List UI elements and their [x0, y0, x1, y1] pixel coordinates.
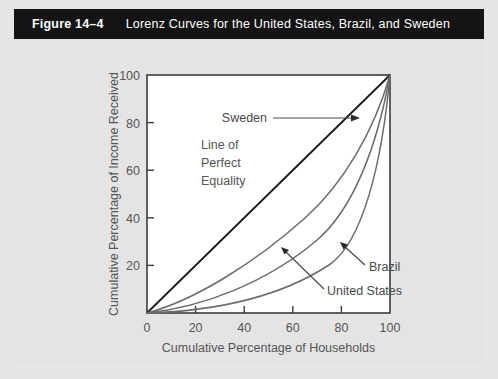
- lorenz-curve-chart: 100 80 60 40 20 0 20 40 60 80 100 Cumula…: [14, 39, 484, 364]
- x-tick-label-20: 20: [189, 321, 203, 335]
- y-tick-label-100: 100: [119, 69, 140, 83]
- figure-title-bar: Figure 14–4 Lorenz Curves for the United…: [14, 9, 484, 39]
- y-tick-label-60: 60: [126, 164, 140, 178]
- equality-label-line2: Perfect: [201, 156, 241, 170]
- brazil-label: Brazil: [369, 260, 400, 274]
- y-tick-label-20: 20: [126, 259, 140, 273]
- figure-body: 100 80 60 40 20 0 20 40 60 80 100 Cumula…: [14, 39, 484, 364]
- x-axis-title: Cumulative Percentage of Households: [162, 341, 375, 355]
- sweden-label: Sweden: [222, 111, 267, 125]
- x-tick-label-100: 100: [380, 321, 401, 335]
- x-tick-label-60: 60: [286, 321, 300, 335]
- figure-title: Lorenz Curves for the United States, Bra…: [126, 17, 450, 31]
- y-tick-label-40: 40: [126, 212, 140, 226]
- x-tick-label-0: 0: [144, 321, 151, 335]
- equality-label-line3: Equality: [201, 174, 246, 188]
- x-tick-label-80: 80: [334, 321, 348, 335]
- y-axis-title: Cumulative Percentage of Income Received: [107, 72, 121, 316]
- x-tick-label-40: 40: [237, 321, 251, 335]
- equality-label-line1: Line of: [201, 138, 239, 152]
- united-states-label: United States: [327, 284, 402, 298]
- figure-container: Figure 14–4 Lorenz Curves for the United…: [0, 0, 498, 379]
- y-tick-label-80: 80: [126, 117, 140, 131]
- figure-number: Figure 14–4: [32, 17, 104, 31]
